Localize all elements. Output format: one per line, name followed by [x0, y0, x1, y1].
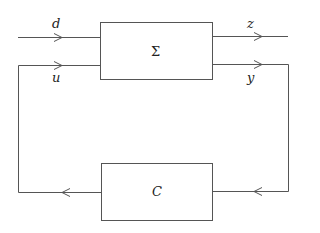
- signal-y-label: y: [247, 71, 254, 84]
- controller-label: C: [152, 185, 162, 198]
- signal-u-label: u: [52, 71, 60, 84]
- signal-d-label: d: [52, 17, 60, 30]
- signal-z-label: z: [247, 17, 254, 30]
- plant-label: Σ: [151, 45, 160, 58]
